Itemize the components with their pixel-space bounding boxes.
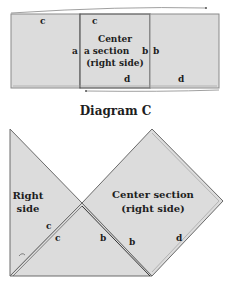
diagram-caption: Diagram C	[0, 104, 231, 118]
right-panel-label-bottom: d	[178, 74, 185, 84]
center-panel-title-1: Center	[98, 34, 132, 44]
right-panel-label-left: b	[153, 46, 159, 56]
left-triangle-title-1: Right	[13, 190, 44, 201]
bottom-triangle-label-left: c	[55, 233, 61, 243]
diamond-title-2: (right side)	[121, 203, 185, 214]
bottom-arrow-curve	[86, 90, 219, 91]
center-panel-title-2: section	[93, 46, 130, 56]
right-panel	[150, 14, 219, 88]
center-panel-title-3: (right side)	[86, 58, 143, 68]
bottom-triangle-label-right: b	[100, 233, 106, 243]
left-triangle-title-2: side	[17, 203, 40, 214]
top-arrow-tip	[205, 7, 207, 9]
diamond-label-right: d	[176, 233, 183, 243]
center-panel-label-bottom: d	[124, 74, 131, 84]
left-panel-label-top: c	[40, 16, 46, 26]
bottom-arrow-tip	[85, 90, 87, 92]
left-panel	[11, 14, 80, 88]
diamond-title-1: Center section	[112, 189, 194, 200]
left-panel-label-right: a	[72, 46, 78, 56]
top-strip: c a c a b d Center section (right side) …	[11, 7, 219, 92]
center-panel-label-top: c	[92, 16, 98, 26]
diamond-label-left: b	[129, 237, 135, 247]
center-panel-label-right: b	[142, 46, 148, 56]
top-arrow-curve	[11, 8, 206, 13]
left-triangle-edge-label: c	[46, 221, 52, 231]
center-panel-label-left: a	[84, 46, 90, 56]
bottom-figure: Right side c c b Center section (right s…	[10, 129, 223, 276]
diagram-canvas: c a c a b d Center section (right side) …	[0, 0, 231, 289]
